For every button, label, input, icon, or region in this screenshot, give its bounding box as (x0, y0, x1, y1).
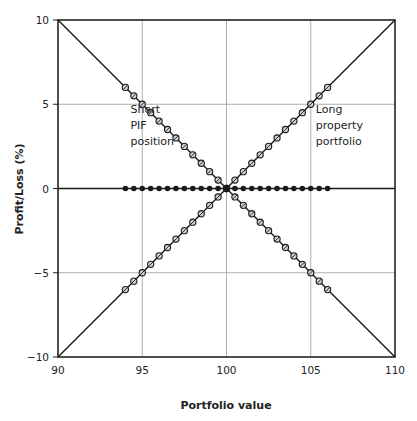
filled-marker (182, 186, 188, 192)
filled-marker (283, 186, 289, 192)
filled-marker (316, 186, 322, 192)
filled-marker (165, 186, 171, 192)
filled-marker (173, 186, 179, 192)
filled-marker (156, 186, 162, 192)
filled-marker (308, 186, 314, 192)
filled-marker (215, 186, 221, 192)
filled-marker (266, 186, 272, 192)
filled-marker (300, 186, 306, 192)
filled-marker (257, 186, 263, 192)
filled-marker (249, 186, 255, 192)
filled-marker (148, 186, 154, 192)
filled-marker (291, 186, 297, 192)
filled-marker (274, 186, 280, 192)
filled-marker (232, 186, 238, 192)
y-axis-label: Profit/Loss (%) (13, 143, 26, 234)
filled-marker (123, 186, 129, 192)
y-tick-label: 10 (36, 14, 49, 26)
x-tick-label: 100 (216, 364, 236, 376)
y-tick-label: 0 (42, 183, 49, 195)
filled-marker (190, 186, 196, 192)
y-tick-label: −5 (34, 267, 49, 279)
filled-marker (325, 186, 331, 192)
x-axis-label: Portfolio value (180, 399, 271, 412)
filled-marker (241, 186, 247, 192)
filled-marker (139, 186, 145, 192)
filled-marker (131, 186, 137, 192)
annotations: ShortPIFpositionLongpropertyportfolio (130, 103, 363, 148)
annotation-label: Longpropertyportfolio (316, 103, 364, 148)
x-tick-label: 110 (385, 364, 405, 376)
profit-loss-chart: −10−50510 9095100105110 ShortPIFposition… (0, 0, 417, 421)
filled-marker (207, 186, 213, 192)
y-tick-label: −10 (27, 351, 49, 363)
y-tick-label: 5 (42, 98, 49, 110)
filled-marker (224, 186, 230, 192)
annotation-label: ShortPIFposition (130, 103, 174, 148)
x-tick-label: 95 (136, 364, 149, 376)
filled-marker (198, 186, 204, 192)
x-tick-label: 90 (51, 364, 64, 376)
x-axis-ticks: 9095100105110 (51, 364, 405, 376)
x-tick-label: 105 (301, 364, 321, 376)
y-axis-ticks: −10−50510 (27, 14, 58, 363)
